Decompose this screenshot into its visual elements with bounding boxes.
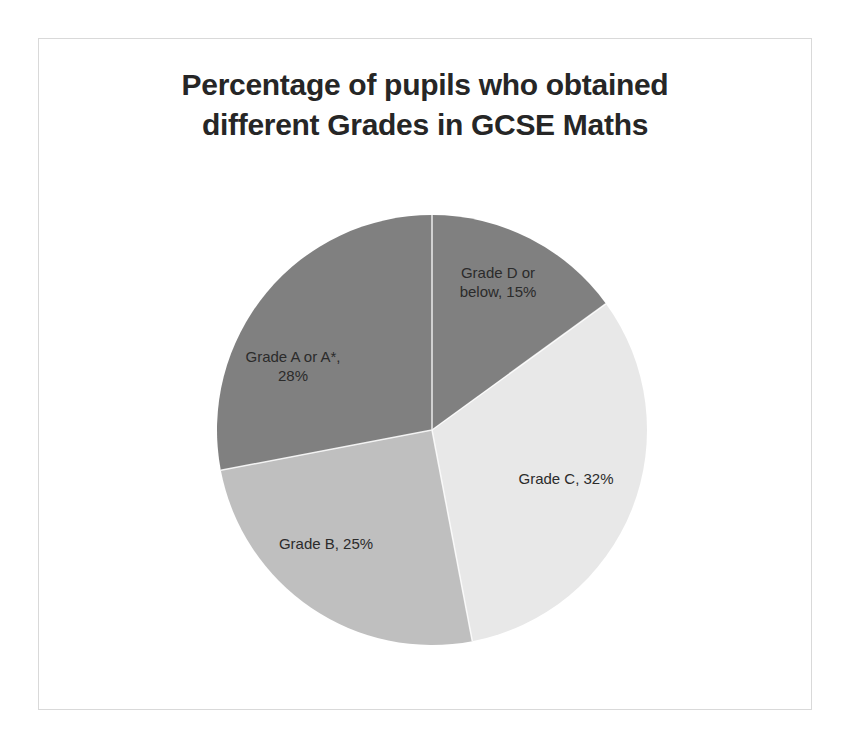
pie-slice-grade-a[interactable] — [217, 215, 432, 470]
pie-svg — [39, 39, 813, 711]
pie-chart: Grade D or below, 15% Grade C, 32% Grade… — [39, 39, 813, 711]
chart-frame: Percentage of pupils who obtained differ… — [38, 38, 812, 710]
